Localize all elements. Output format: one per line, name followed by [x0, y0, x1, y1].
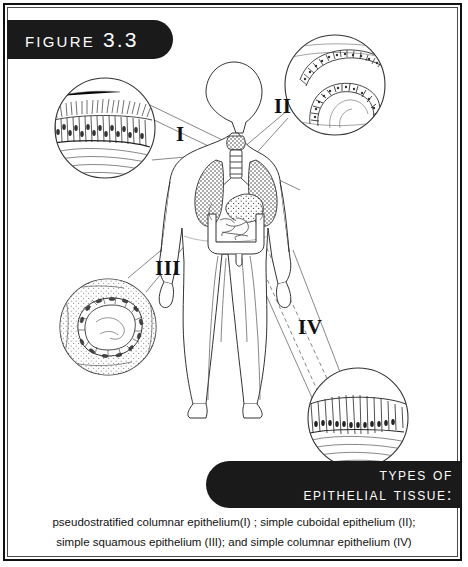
figure-title-line-2: epithelial tissue:: [303, 485, 453, 505]
figure-caption-line-2: simple squamous epithelium (III); and si…: [14, 532, 454, 552]
figure-title-banner: Types of epithelial tissue:: [206, 461, 461, 508]
figure-number-banner: Figure 3.3: [7, 20, 173, 59]
figure-number-label: Figure 3.3: [7, 28, 139, 52]
figure-page: I II III IV Figure 3.3 Types of epitheli…: [0, 0, 468, 567]
figure-caption: pseudostratified columnar epithelium(I) …: [14, 512, 454, 552]
figure-caption-line-1: pseudostratified columnar epithelium(I) …: [14, 512, 454, 532]
figure-title-line-1: Types of: [379, 465, 453, 485]
